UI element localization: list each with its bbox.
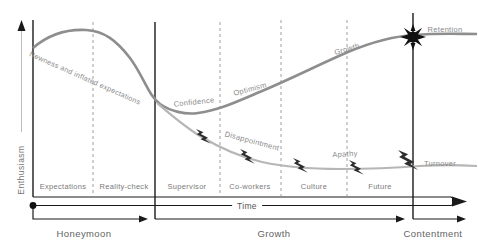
lightning-bolt-icon [293, 158, 308, 173]
y-axis-label: Enthusiasm [16, 145, 26, 194]
x-axis-label: Time [232, 201, 262, 211]
growth-arrow-icon [396, 216, 405, 223]
annotation-retention: Retention [428, 25, 463, 34]
section-label-co-workers: Co-workers [229, 182, 270, 191]
section-label-reality-check: Reality-check [100, 182, 149, 191]
enthusiasm-lifecycle-diagram: Enthusiasm Newness and inflated expectat… [0, 0, 478, 251]
section-label-expectations: Expectations [40, 182, 87, 191]
time-arrow-icon [452, 197, 467, 207]
y-axis [18, 20, 26, 132]
y-axis-arrow-icon [18, 20, 26, 31]
section-label-culture: Culture [301, 182, 327, 191]
annotation-turnover: Turnover [424, 159, 456, 168]
phase-label-growth: Growth [257, 228, 290, 239]
retention-burst-icon [400, 24, 426, 50]
diagram-canvas [0, 0, 478, 251]
contentment-arrow-icon [457, 216, 466, 223]
time-origin-dot [30, 202, 37, 209]
lightning-bolt-icon [349, 160, 364, 175]
phase-label-honeymoon: Honeymoon [57, 228, 112, 239]
honeymoon-arrow-icon [139, 216, 148, 223]
phase-label-contentment: Contentment [404, 228, 463, 239]
annotation-apathy: Apathy [332, 149, 358, 159]
section-label-supervisor: Supervisor [168, 182, 207, 191]
enthusiasm-curve [33, 30, 477, 114]
section-label-future: Future [368, 182, 391, 191]
